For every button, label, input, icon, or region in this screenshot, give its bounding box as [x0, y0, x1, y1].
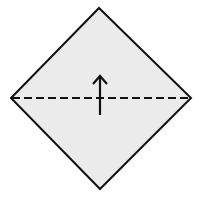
origami-diagram: [0, 0, 199, 203]
diagram-svg: [0, 0, 199, 203]
